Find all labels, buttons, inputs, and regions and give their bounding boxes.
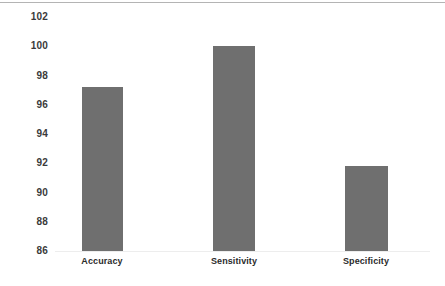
bar-chart: 102 100 98 96 94 92 90 88 86 Accuracy Se…	[0, 0, 445, 286]
bar-sensitivity[interactable]	[213, 46, 255, 251]
x-axis-label-sensitivity: Sensitivity	[174, 255, 294, 267]
x-axis-label-specificity: Specificity	[306, 255, 426, 267]
bar-accuracy[interactable]	[82, 87, 123, 251]
y-axis-tick-88: 88	[0, 217, 48, 227]
bar-specificity[interactable]	[345, 166, 388, 251]
y-axis-tick-86: 86	[0, 246, 48, 256]
y-axis-tick-90: 90	[0, 188, 48, 198]
y-axis-tick-92: 92	[0, 158, 48, 168]
x-axis-baseline	[55, 251, 430, 252]
y-axis-tick-100: 100	[0, 41, 48, 51]
y-axis-tick-102: 102	[0, 12, 48, 22]
y-axis-tick-98: 98	[0, 71, 48, 81]
y-axis-tick-94: 94	[0, 129, 48, 139]
x-axis-label-accuracy: Accuracy	[42, 255, 162, 267]
plot-area: 102 100 98 96 94 92 90 88 86 Accuracy Se…	[0, 0, 445, 286]
y-axis-tick-96: 96	[0, 100, 48, 110]
